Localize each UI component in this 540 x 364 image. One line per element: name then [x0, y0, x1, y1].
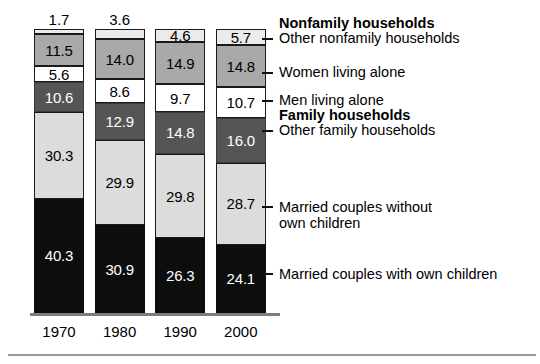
stacked-bar-chart: 11.55.610.630.340.31.714.08.612.929.930.…: [0, 0, 540, 364]
bar-segment-1990-2: 9.7: [155, 84, 205, 112]
bar-2000: 5.714.810.716.028.724.1: [216, 29, 266, 313]
plot-area: 11.55.610.630.340.31.714.08.612.929.930.…: [0, 0, 270, 364]
callout-label-1: Other nonfamily households: [279, 30, 460, 46]
bar-segment-1970-4: 30.3: [34, 112, 84, 198]
bar-segment-2000-0: 5.7: [216, 29, 266, 45]
legend-callouts: Nonfamily householdsOther nonfamily hous…: [262, 0, 540, 364]
segment-value-label: 28.7: [227, 196, 255, 211]
x-tick-label-1990: 1990: [155, 324, 205, 339]
callout-label-0: Nonfamily households: [279, 15, 435, 31]
bar-segment-1980-3: 12.9: [95, 103, 145, 140]
bar-segment-1990-4: 29.8: [155, 154, 205, 239]
segment-value-label: 8.6: [109, 84, 129, 99]
segment-value-label: 24.1: [227, 271, 255, 286]
callout-label-2: Women living alone: [279, 64, 405, 80]
segment-value-label: 30.9: [105, 262, 133, 277]
callout-leader-tick-6: [262, 206, 273, 208]
bar-1980: 14.08.612.929.930.9: [95, 29, 145, 313]
segment-value-label: 10.6: [45, 90, 73, 105]
bar-segment-2000-3: 16.0: [216, 118, 266, 163]
callout-leader-tick-5: [262, 130, 273, 132]
x-tick-label-1970: 1970: [34, 324, 84, 339]
bar-segment-1990-1: 14.9: [155, 42, 205, 84]
segment-value-label: 9.7: [170, 91, 190, 106]
x-tick-label-2000: 2000: [216, 324, 266, 339]
segment-value-label: 12.9: [105, 114, 133, 129]
segment-value-label: 10.7: [227, 95, 255, 110]
bar-1990: 4.614.99.714.829.826.3: [155, 29, 205, 313]
callout-label-5: Other family households: [279, 122, 435, 138]
bottom-divider-rule: [8, 354, 536, 356]
segment-value-label: 5.6: [49, 67, 69, 82]
bar-segment-2000-4: 28.7: [216, 163, 266, 245]
callout-leader-tick-3: [262, 100, 273, 102]
bar-segment-1970-2: 5.6: [34, 66, 84, 82]
callout-leader-tick-7: [262, 273, 273, 275]
segment-value-label: 14.8: [227, 59, 255, 74]
bar-segment-2000-1: 14.8: [216, 45, 266, 87]
segment-value-label: 40.3: [45, 248, 73, 263]
x-tick-label-1980: 1980: [95, 324, 145, 339]
segment-value-label: 29.8: [166, 189, 194, 204]
bar-top-value-label-1970: 1.7: [34, 12, 84, 27]
bar-segment-1980-0: [95, 29, 145, 39]
bar-segment-1980-4: 29.9: [95, 140, 145, 225]
bar-segment-1980-5: 30.9: [95, 225, 145, 313]
bar-segment-1980-2: 8.6: [95, 79, 145, 103]
segment-value-label: 5.7: [231, 30, 251, 45]
callout-leader-tick-1: [262, 38, 273, 40]
bar-segment-2000-5: 24.1: [216, 245, 266, 313]
bar-top-value-label-1980: 3.6: [95, 12, 145, 27]
segment-value-label: 14.8: [166, 125, 194, 140]
segment-value-label: 26.3: [166, 268, 194, 283]
segment-value-label: 30.3: [45, 148, 73, 163]
bar-segment-1990-5: 26.3: [155, 238, 205, 313]
segment-value-label: 14.9: [166, 56, 194, 71]
callout-leader-tick-2: [262, 72, 273, 74]
segment-value-label: 4.6: [170, 28, 190, 43]
bar-segment-1970-5: 40.3: [34, 199, 84, 313]
segment-value-label: 29.9: [105, 175, 133, 190]
bar-segment-1990-3: 14.8: [155, 112, 205, 154]
segment-value-label: 16.0: [227, 133, 255, 148]
bar-segment-1970-1: 11.5: [34, 34, 84, 67]
bar-segment-1980-1: 14.0: [95, 39, 145, 79]
bar-segment-2000-2: 10.7: [216, 87, 266, 117]
segment-value-label: 14.0: [105, 52, 133, 67]
bar-1970: 11.55.610.630.340.3: [34, 29, 84, 313]
segment-value-label: 11.5: [45, 43, 72, 58]
bar-segment-1970-3: 10.6: [34, 82, 84, 112]
bar-segment-1990-0: 4.6: [155, 29, 205, 42]
callout-label-7: Married couples with own children: [279, 266, 497, 282]
callout-label-3: Men living alone: [279, 92, 384, 108]
x-axis-line: [30, 313, 280, 316]
callout-label-6: Married couples without own children: [279, 199, 432, 231]
callout-label-4: Family households: [279, 107, 410, 123]
